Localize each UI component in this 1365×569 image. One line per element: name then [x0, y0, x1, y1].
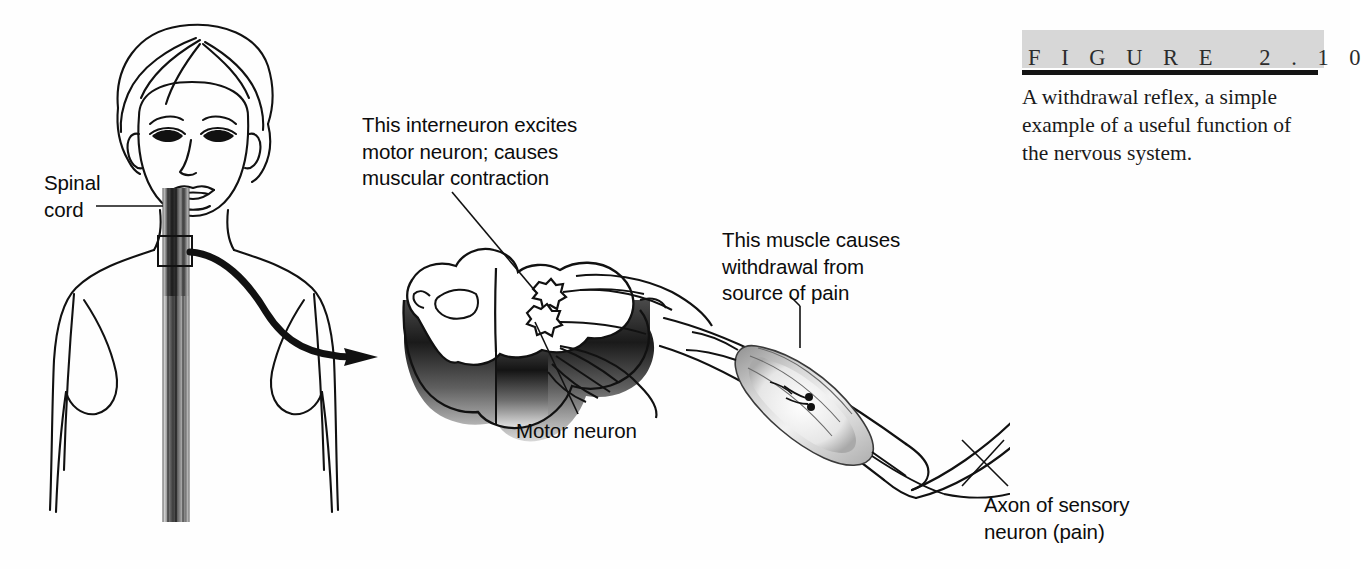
label-interneuron: This interneuron excites motor neuron; c… — [362, 112, 577, 192]
figure-number-banner: F I G U R E 2 . 1 0 — [1022, 30, 1324, 68]
label-spinal-cord: Spinal cord — [44, 170, 100, 223]
figure-number-text: F I G U R E 2 . 1 0 — [1028, 45, 1365, 71]
label-muscle: This muscle causes withdrawal from sourc… — [722, 227, 900, 307]
spinal-cord-column — [163, 188, 189, 522]
female-figure — [50, 25, 338, 512]
figure-caption-text: A withdrawal reflex, a simple example of… — [1022, 84, 1312, 168]
spinal-cord-cross-section — [404, 249, 712, 442]
figure-caption-panel: F I G U R E 2 . 1 0 A withdrawal reflex,… — [1022, 30, 1324, 168]
biceps-muscle — [686, 332, 906, 476]
label-motor-neuron: Motor neuron — [516, 418, 637, 445]
label-axon: Axon of sensory neuron (pain) — [984, 492, 1130, 545]
